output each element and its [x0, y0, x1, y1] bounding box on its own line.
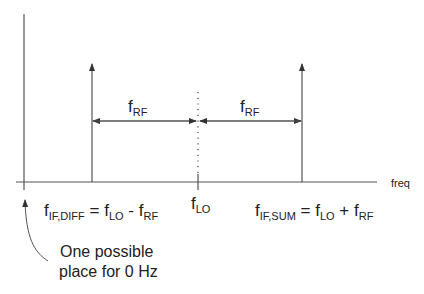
if-sum-equation: fIF,SUM = fLO + fRF [255, 201, 374, 222]
if-diff-equation: fIF,DIFF = fLO - fRF [44, 201, 158, 222]
lo-label: fLO [191, 194, 211, 215]
mixer-spectrum-diagram: freq fRF fRF fLO fIF,DIFF = fLO - fRF fI… [0, 0, 424, 294]
spacing-label-right: fRF [240, 97, 260, 118]
x-axis-label: freq [391, 177, 410, 189]
annotation-line-1: One possible [60, 243, 153, 260]
spacing-label-left: fRF [128, 97, 148, 118]
annotation-line-2: place for 0 Hz [59, 263, 158, 280]
